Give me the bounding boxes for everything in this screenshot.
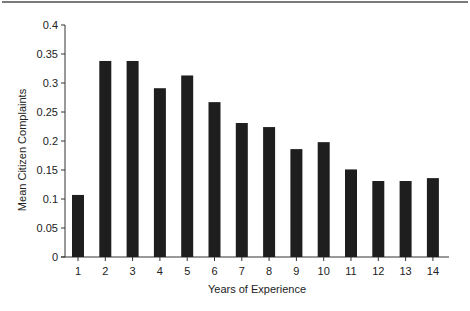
x-tick-label: 5 bbox=[184, 265, 190, 277]
bar bbox=[400, 181, 412, 257]
x-tick-label: 14 bbox=[427, 265, 439, 277]
x-tick-label: 1 bbox=[75, 265, 81, 277]
bar bbox=[318, 142, 330, 257]
y-tick-label: 0.25 bbox=[37, 106, 58, 118]
y-tick-label: 0.2 bbox=[43, 135, 58, 147]
bar bbox=[127, 61, 139, 257]
y-tick-label: 0.35 bbox=[37, 48, 58, 60]
y-axis: 00.050.10.150.20.250.30.350.4 bbox=[37, 19, 65, 263]
x-tick-label: 4 bbox=[157, 265, 163, 277]
x-tick-label: 10 bbox=[318, 265, 330, 277]
y-tick-label: 0.1 bbox=[43, 193, 58, 205]
x-tick-label: 2 bbox=[102, 265, 108, 277]
y-axis-title: Mean Citizen Complaints bbox=[16, 88, 28, 211]
x-tick-label: 3 bbox=[130, 265, 136, 277]
bar bbox=[263, 127, 275, 257]
y-tick-label: 0.4 bbox=[43, 19, 58, 31]
x-axis-title: Years of Experience bbox=[208, 283, 306, 295]
bar bbox=[99, 61, 111, 257]
bar bbox=[72, 195, 84, 257]
y-tick-label: 0.3 bbox=[43, 77, 58, 89]
x-axis: 1234567891011121314 bbox=[61, 257, 449, 277]
bar bbox=[181, 75, 193, 257]
y-tick-label: 0 bbox=[52, 251, 58, 263]
bar bbox=[427, 178, 439, 257]
bar bbox=[236, 123, 248, 257]
x-tick-label: 8 bbox=[266, 265, 272, 277]
x-tick-label: 11 bbox=[345, 265, 356, 277]
bar bbox=[290, 149, 302, 257]
bars bbox=[72, 61, 439, 257]
bar bbox=[209, 102, 221, 257]
y-tick-label: 0.05 bbox=[37, 222, 58, 234]
x-tick-label: 9 bbox=[293, 265, 299, 277]
bar bbox=[154, 88, 166, 257]
x-tick-label: 6 bbox=[211, 265, 217, 277]
bar bbox=[372, 181, 384, 257]
bar bbox=[345, 169, 357, 257]
bar-chart: 00.050.10.150.20.250.30.350.4 1234567891… bbox=[0, 0, 470, 311]
x-tick-label: 12 bbox=[372, 265, 384, 277]
x-tick-label: 7 bbox=[239, 265, 245, 277]
x-tick-label: 13 bbox=[399, 265, 411, 277]
y-tick-label: 0.15 bbox=[37, 164, 58, 176]
